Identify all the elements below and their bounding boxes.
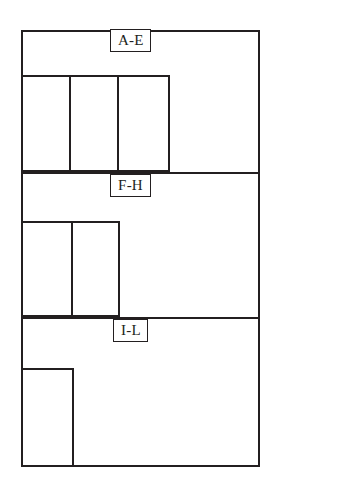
bar: [69, 75, 119, 172]
bar: [71, 221, 120, 317]
band-label-i-l: I-L: [113, 319, 148, 342]
bar: [21, 368, 74, 467]
bar: [21, 75, 71, 172]
banded-bar-diagram: A-E F-H I-L: [0, 0, 339, 489]
bar-row-a-e: [21, 75, 170, 172]
bar-row-f-h: [21, 221, 120, 317]
band-label-f-h: F-H: [110, 174, 151, 197]
bar: [117, 75, 170, 172]
bar-row-i-l: [21, 368, 74, 467]
band-label-a-e: A-E: [110, 29, 151, 52]
bar: [21, 221, 73, 317]
